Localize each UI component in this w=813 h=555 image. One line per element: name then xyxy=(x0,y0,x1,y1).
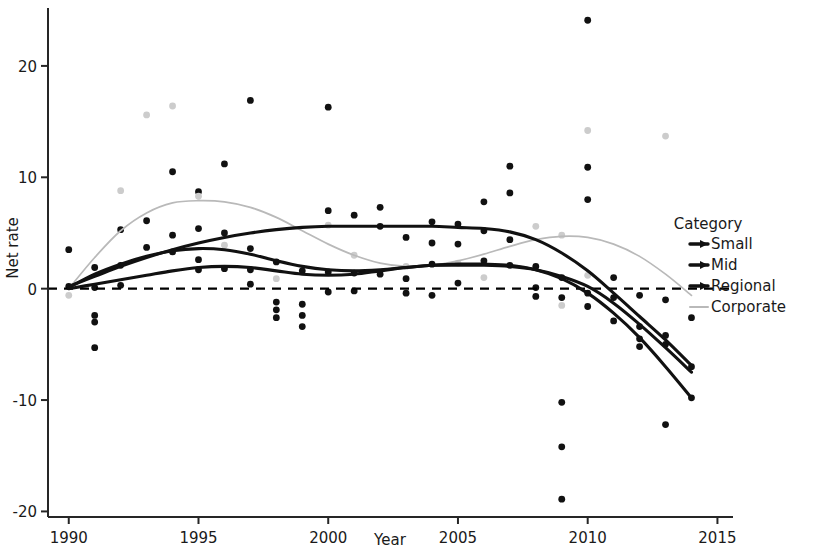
scatter-point xyxy=(584,196,591,203)
scatter-point xyxy=(247,245,254,252)
scatter-point xyxy=(558,302,565,309)
scatter-point xyxy=(403,234,410,241)
scatter-point xyxy=(65,246,72,253)
scatter-point xyxy=(299,323,306,330)
scatter-point xyxy=(584,164,591,171)
scatter-point xyxy=(455,280,462,287)
legend-label-regional: Regional xyxy=(711,277,776,295)
scatter-point xyxy=(299,301,306,308)
scatter-point xyxy=(143,244,150,251)
scatter-point xyxy=(247,97,254,104)
scatter-point xyxy=(91,264,98,271)
legend-label-small: Small xyxy=(711,235,753,253)
scatter-point xyxy=(558,399,565,406)
scatter-point xyxy=(195,193,202,200)
scatter-point xyxy=(610,274,617,281)
scatter-point xyxy=(91,344,98,351)
scatter-point xyxy=(91,312,98,319)
scatter-point xyxy=(429,218,436,225)
y-tick-label: 20 xyxy=(18,58,37,76)
legend-title: Category xyxy=(674,215,743,233)
y-tick-label: -20 xyxy=(13,503,38,521)
scatter-point xyxy=(662,133,669,140)
scatter-point xyxy=(143,112,150,119)
y-tick-label: 0 xyxy=(27,281,37,299)
scatter-point xyxy=(506,189,513,196)
scatter-point xyxy=(377,204,384,211)
scatter-point xyxy=(403,290,410,297)
y-tick-label: 10 xyxy=(18,169,37,187)
net-rate-scatter-chart: 20100-10-20 199019952000200520102015 Net… xyxy=(0,0,813,555)
scatter-point xyxy=(532,284,539,291)
scatter-point xyxy=(169,168,176,175)
scatter-point xyxy=(221,242,228,249)
scatter-point xyxy=(532,223,539,230)
scatter-point xyxy=(662,421,669,428)
x-tick-label: 1990 xyxy=(50,529,88,547)
scatter-point xyxy=(429,240,436,247)
scatter-point xyxy=(273,275,280,282)
scatter-point xyxy=(117,187,124,194)
scatter-point xyxy=(506,163,513,170)
scatter-point xyxy=(273,306,280,313)
x-tick-label: 1995 xyxy=(179,529,217,547)
scatter-point xyxy=(688,314,695,321)
scatter-point xyxy=(65,292,72,299)
y-tick-label: -10 xyxy=(13,392,38,410)
x-tick-label: 2000 xyxy=(309,529,347,547)
scatter-point xyxy=(584,17,591,24)
scatter-point xyxy=(662,296,669,303)
scatter-point xyxy=(481,274,488,281)
scatter-point xyxy=(403,275,410,282)
scatter-point xyxy=(532,293,539,300)
scatter-point xyxy=(455,241,462,248)
scatter-point xyxy=(429,292,436,299)
y-axis-title: Net rate xyxy=(4,217,22,279)
scatter-point xyxy=(169,232,176,239)
x-tick-label: 2015 xyxy=(698,529,736,547)
scatter-point xyxy=(273,299,280,306)
scatter-point xyxy=(273,314,280,321)
scatter-point xyxy=(610,318,617,325)
scatter-point xyxy=(325,104,332,111)
scatter-point xyxy=(636,343,643,350)
x-axis-title: Year xyxy=(373,531,407,549)
x-tick-label: 2005 xyxy=(439,529,477,547)
x-tick-label: 2010 xyxy=(569,529,607,547)
scatter-point xyxy=(558,496,565,503)
scatter-point xyxy=(584,303,591,310)
scatter-point xyxy=(91,319,98,326)
scatter-point xyxy=(195,225,202,232)
scatter-point xyxy=(169,103,176,110)
scatter-point xyxy=(221,161,228,168)
legend-label-mid: Mid xyxy=(711,256,738,274)
scatter-point xyxy=(325,207,332,214)
scatter-point xyxy=(195,256,202,263)
scatter-point xyxy=(143,217,150,224)
scatter-point xyxy=(481,198,488,205)
scatter-point xyxy=(351,212,358,219)
scatter-point xyxy=(584,127,591,134)
scatter-point xyxy=(558,294,565,301)
scatter-point xyxy=(221,230,228,237)
scatter-point xyxy=(506,236,513,243)
legend-label-corporate: Corporate xyxy=(711,298,786,316)
scatter-point xyxy=(558,443,565,450)
scatter-point xyxy=(247,281,254,288)
scatter-point xyxy=(299,312,306,319)
scatter-point xyxy=(558,232,565,239)
scatter-point xyxy=(636,292,643,299)
